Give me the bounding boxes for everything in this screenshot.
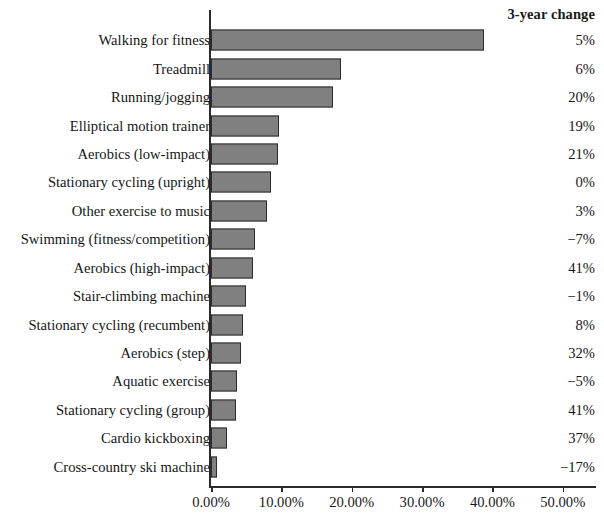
chart-row: Stationary cycling (group)41% <box>0 396 604 424</box>
x-axis-tick-label: 20.00% <box>329 494 374 511</box>
bar-track <box>211 343 241 364</box>
plot-area: Walking for fitness5%Treadmill6%Running/… <box>0 26 604 484</box>
chart-container: 3-year change Walking for fitness5%Tread… <box>0 0 604 527</box>
bar-track <box>211 200 267 221</box>
category-label: Stationary cycling (upright) <box>48 175 210 190</box>
chart-row: Aerobics (high-impact)41% <box>0 254 604 282</box>
bar <box>211 30 484 51</box>
category-label: Stationary cycling (group) <box>56 403 210 418</box>
change-value: 37% <box>568 431 595 446</box>
category-label: Stationary cycling (recumbent) <box>28 317 210 332</box>
bar <box>211 343 241 364</box>
change-value: 3% <box>576 204 595 219</box>
change-column-header: 3-year change <box>507 6 595 23</box>
x-axis-tick-label: 10.00% <box>259 494 304 511</box>
bar <box>211 58 341 79</box>
chart-row: Swimming (fitness/competition)−7% <box>0 225 604 253</box>
chart-row: Walking for fitness5% <box>0 26 604 54</box>
chart-row: Elliptical motion trainer19% <box>0 111 604 139</box>
category-label: Aerobics (low-impact) <box>77 147 210 162</box>
x-axis-tick-label: 0.00% <box>192 494 230 511</box>
bar <box>211 229 255 250</box>
bar <box>211 87 333 108</box>
bar <box>211 200 267 221</box>
chart-row: Aerobics (low-impact)21% <box>0 140 604 168</box>
x-axis-line <box>209 486 596 488</box>
x-axis-tick <box>492 487 494 492</box>
x-axis-tick <box>211 487 213 492</box>
change-value: −5% <box>567 374 595 389</box>
category-label: Cross-country ski machine <box>54 459 210 474</box>
change-value: 21% <box>568 147 595 162</box>
change-value: 8% <box>576 317 595 332</box>
change-value: 19% <box>568 118 595 133</box>
bar <box>211 143 278 164</box>
chart-row: Aerobics (step)32% <box>0 339 604 367</box>
change-value: 5% <box>576 33 595 48</box>
chart-row: Stair-climbing machine−1% <box>0 282 604 310</box>
bar-track <box>211 30 484 51</box>
bar <box>211 399 236 420</box>
change-value: 20% <box>568 90 595 105</box>
category-label: Other exercise to music <box>72 204 210 219</box>
category-label: Walking for fitness <box>99 33 211 48</box>
bar-track <box>211 286 246 307</box>
bar <box>211 172 271 193</box>
category-label: Elliptical motion trainer <box>70 118 210 133</box>
category-label: Stair-climbing machine <box>73 289 210 304</box>
category-label: Aquatic exercise <box>112 374 210 389</box>
chart-row: Stationary cycling (upright)0% <box>0 168 604 196</box>
chart-row: Aquatic exercise−5% <box>0 367 604 395</box>
change-value: −1% <box>567 289 595 304</box>
bar-track <box>211 314 243 335</box>
bar <box>211 314 243 335</box>
category-label: Cardio kickboxing <box>101 431 210 446</box>
category-label: Treadmill <box>153 61 210 76</box>
bar-track <box>211 58 341 79</box>
bar <box>211 257 253 278</box>
x-axis-tick-label: 30.00% <box>400 494 445 511</box>
chart-row: Running/jogging20% <box>0 83 604 111</box>
change-value: 6% <box>576 61 595 76</box>
chart-row: Treadmill6% <box>0 54 604 82</box>
bar-track <box>211 371 237 392</box>
bar-track <box>211 87 333 108</box>
x-axis-tick <box>352 487 354 492</box>
category-label: Swimming (fitness/competition) <box>21 232 210 247</box>
chart-row: Stationary cycling (recumbent)8% <box>0 310 604 338</box>
bar-track <box>211 115 279 136</box>
bar <box>211 428 227 449</box>
chart-row: Cardio kickboxing37% <box>0 424 604 452</box>
chart-row: Cross-country ski machine−17% <box>0 453 604 481</box>
x-axis-tick <box>563 487 565 492</box>
bar-track <box>211 257 253 278</box>
bar-track <box>211 229 255 250</box>
x-axis-tick-label: 50.00% <box>540 494 585 511</box>
x-axis-tick <box>422 487 424 492</box>
bar-track <box>211 428 227 449</box>
category-label: Running/jogging <box>111 90 210 105</box>
x-axis-tick-label: 40.00% <box>470 494 515 511</box>
bar <box>211 371 237 392</box>
bar <box>211 456 217 477</box>
change-value: 0% <box>576 175 595 190</box>
bar <box>211 286 246 307</box>
change-value: −7% <box>567 232 595 247</box>
bar-track <box>211 143 278 164</box>
bar-track <box>211 399 236 420</box>
bar-track <box>211 456 217 477</box>
change-value: −17% <box>560 459 595 474</box>
bar-track <box>211 172 271 193</box>
category-label: Aerobics (high-impact) <box>73 260 210 275</box>
change-value: 41% <box>568 403 595 418</box>
x-axis-tick <box>281 487 283 492</box>
change-value: 32% <box>568 346 595 361</box>
change-value: 41% <box>568 260 595 275</box>
category-label: Aerobics (step) <box>120 346 210 361</box>
chart-row: Other exercise to music3% <box>0 197 604 225</box>
bar <box>211 115 279 136</box>
